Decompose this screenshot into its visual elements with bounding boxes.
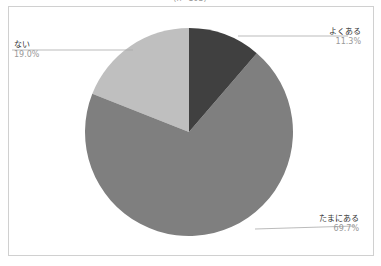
slice-label: ない bbox=[14, 40, 39, 50]
slice-value: 11.3% bbox=[329, 37, 361, 47]
slice-value: 19.0% bbox=[14, 50, 39, 60]
slice-value: 69.7% bbox=[319, 224, 359, 234]
slice-label: よくある bbox=[329, 27, 361, 37]
slice-label: たまにある bbox=[319, 214, 359, 224]
label-tamani: たまにある 69.7% bbox=[319, 214, 359, 234]
label-yoku: よくある 11.3% bbox=[329, 27, 361, 47]
label-nai: ない 19.0% bbox=[14, 40, 39, 60]
